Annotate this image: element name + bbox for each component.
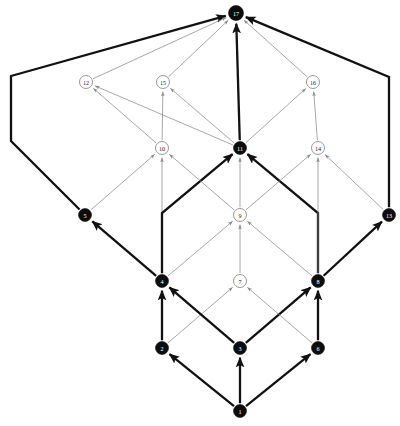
node-circle-16[interactable] [307, 76, 320, 89]
edge-5-to-17 [11, 16, 226, 210]
edges-layer [11, 16, 389, 406]
node-circle-8[interactable] [312, 275, 325, 288]
node-circle-14[interactable] [312, 142, 325, 155]
node-circle-17[interactable] [229, 6, 244, 21]
graph-canvas: 1234567891011121314151617 [0, 0, 400, 426]
graph-node-11[interactable]: 11 [234, 142, 247, 155]
edge-11-to-17 [236, 24, 239, 141]
graph-node-3[interactable]: 3 [234, 342, 247, 355]
edge-1-to-6 [246, 354, 310, 406]
edge-1-to-2 [170, 354, 234, 406]
edge-4-to-9 [168, 221, 233, 276]
edge-5-to-10 [91, 154, 155, 210]
graph-node-9[interactable]: 9 [234, 209, 247, 222]
graph-node-12[interactable]: 12 [80, 76, 93, 89]
graph-node-1[interactable]: 1 [234, 405, 247, 418]
node-circle-6[interactable] [312, 342, 325, 355]
edge-8-to-9 [247, 221, 312, 276]
graph-diagram: 1234567891011121314151617 [0, 0, 400, 426]
graph-node-15[interactable]: 15 [157, 76, 170, 89]
edge-8-to-11 [247, 154, 318, 273]
graph-node-14[interactable]: 14 [312, 142, 325, 155]
node-circle-1[interactable] [234, 405, 247, 418]
graph-node-6[interactable]: 6 [312, 342, 325, 355]
graph-node-4[interactable]: 4 [156, 275, 169, 288]
edge-4-to-11 [162, 154, 233, 273]
graph-node-16[interactable]: 16 [307, 76, 320, 89]
node-circle-4[interactable] [156, 275, 169, 288]
graph-node-13[interactable]: 13 [383, 209, 396, 222]
node-circle-2[interactable] [156, 342, 169, 355]
node-circle-5[interactable] [79, 209, 92, 222]
graph-node-5[interactable]: 5 [79, 209, 92, 222]
edge-13-to-17 [246, 17, 389, 207]
edge-11-to-12 [95, 86, 233, 145]
graph-node-17[interactable]: 17 [229, 6, 244, 21]
edge-10-to-15 [162, 92, 163, 141]
node-circle-11[interactable] [234, 142, 247, 155]
node-circle-12[interactable] [80, 76, 93, 89]
edge-4-to-5 [92, 221, 156, 276]
edge-8-to-13 [324, 222, 382, 276]
node-circle-10[interactable] [156, 142, 169, 155]
edge-9-to-14 [246, 154, 311, 210]
edge-10-to-12 [93, 88, 156, 143]
edge-11-to-16 [246, 89, 306, 143]
node-circle-7[interactable] [234, 275, 247, 288]
graph-node-10[interactable]: 10 [156, 142, 169, 155]
node-circle-15[interactable] [157, 76, 170, 89]
edge-11-to-15 [170, 88, 234, 143]
graph-node-7[interactable]: 7 [234, 275, 247, 288]
edge-3-to-4 [169, 287, 234, 343]
node-circle-9[interactable] [234, 209, 247, 222]
edge-14-to-16 [314, 92, 318, 141]
node-circle-13[interactable] [383, 209, 396, 222]
edge-9-to-10 [169, 154, 234, 210]
graph-node-8[interactable]: 8 [312, 275, 325, 288]
node-circle-3[interactable] [234, 342, 247, 355]
graph-node-2[interactable]: 2 [156, 342, 169, 355]
edge-13-to-14 [325, 155, 383, 210]
edge-3-to-8 [246, 287, 311, 343]
